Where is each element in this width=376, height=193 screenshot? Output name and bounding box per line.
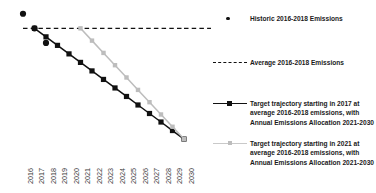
legend-item-historic: Historic 2016-2018 Emissions (213, 14, 376, 23)
data-point-marker (182, 137, 186, 141)
series-2 (32, 26, 187, 142)
data-point-marker (55, 43, 60, 48)
data-point-marker (159, 112, 163, 116)
legend-item-average: Average 2016-2018 Emissions (213, 58, 376, 67)
data-point-marker (113, 63, 117, 67)
legend-label-historic: Historic 2016-2018 Emissions (250, 14, 376, 23)
data-point-marker (43, 40, 49, 46)
data-point-marker (136, 88, 140, 92)
x-axis-tick-label: 2017 (37, 168, 46, 184)
x-axis-tick-label: 2027 (152, 168, 161, 184)
data-point-marker (101, 77, 106, 82)
black-square-line-marker-icon (213, 99, 247, 108)
legend-item-target-2021: Target trajectory starting in 2021 at av… (213, 139, 376, 167)
x-axis-tick-label: 2019 (60, 168, 69, 184)
data-point-marker (147, 100, 151, 104)
data-point-marker (147, 111, 152, 116)
dashed-line-marker-icon (213, 58, 247, 67)
legend-item-target-2017: Target trajectory starting in 2017 at av… (213, 99, 376, 127)
x-axis-tick-label: 2016 (26, 168, 35, 184)
data-point-marker (158, 119, 163, 124)
data-point-marker (43, 34, 48, 39)
data-point-marker (78, 26, 82, 30)
x-axis-tick-label: 2021 (83, 168, 92, 184)
data-point-marker (90, 38, 94, 42)
series-3 (78, 26, 186, 141)
x-axis-tick-label: 2023 (106, 168, 115, 184)
legend-label-target-2021: Target trajectory starting in 2021 at av… (250, 139, 376, 167)
data-point-marker (124, 75, 128, 79)
data-point-marker (78, 60, 83, 65)
x-axis-tick-labels: 2016201720182019202020212022202320242025… (0, 156, 215, 193)
data-point-marker (112, 85, 117, 90)
chart-legend: Historic 2016-2018 Emissions Average 201… (213, 0, 376, 193)
x-axis-tick-label: 2030 (187, 168, 196, 184)
x-axis-tick-label: 2020 (72, 168, 81, 184)
data-point-marker (170, 125, 174, 129)
x-axis-tick-label: 2026 (141, 168, 150, 184)
x-axis-tick-label: 2024 (118, 168, 127, 184)
legend-label-average: Average 2016-2018 Emissions (250, 58, 376, 67)
data-point-marker (124, 94, 129, 99)
x-axis-tick-label: 2029 (175, 168, 184, 184)
x-axis-tick-label: 2025 (129, 168, 138, 184)
data-point-marker (135, 102, 140, 107)
data-point-marker (101, 51, 105, 55)
series-line (81, 28, 185, 139)
data-point-marker (89, 68, 94, 73)
data-point-marker (20, 11, 26, 17)
x-axis-tick-label: 2028 (164, 168, 173, 184)
emissions-trajectory-chart: 2016201720182019202020212022202320242025… (0, 0, 376, 193)
x-axis-tick-label: 2018 (49, 168, 58, 184)
plot-area (0, 0, 215, 150)
data-point-marker (32, 26, 37, 31)
legend-label-target-2017: Target trajectory starting in 2017 at av… (250, 99, 376, 127)
data-point-marker (66, 51, 71, 56)
circle-marker-icon (213, 14, 247, 23)
gray-square-line-marker-icon (213, 139, 247, 148)
x-axis-tick-label: 2022 (95, 168, 104, 184)
plot-svg (0, 0, 215, 150)
